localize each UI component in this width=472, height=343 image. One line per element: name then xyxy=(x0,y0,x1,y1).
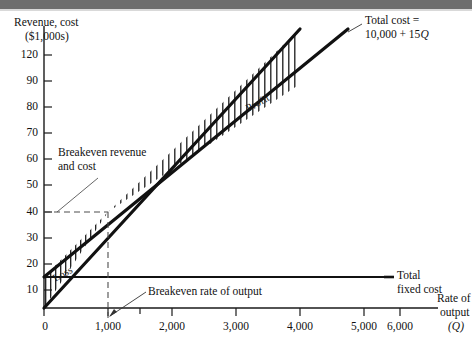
x-ticks xyxy=(44,308,400,316)
x-axis-title-line2: output xyxy=(440,306,469,320)
y-tick-label-80: 80 xyxy=(12,100,38,114)
breakeven-output-arrowhead xyxy=(109,309,117,317)
y-tick-label-50: 50 xyxy=(12,178,38,192)
y-tick-label-70: 70 xyxy=(12,126,38,140)
total-cost-equation-line1: Total cost = xyxy=(365,14,419,28)
breakeven-revenue-leader xyxy=(57,178,98,212)
breakeven-revenue-label-line1: Breakeven revenue xyxy=(58,146,146,160)
x-axis-title-line3: (Q) xyxy=(448,320,464,334)
breakeven-output-label: Breakeven rate of output xyxy=(148,285,262,299)
profit-region xyxy=(108,29,300,212)
y-axis-title-line1: Revenue, cost xyxy=(14,16,79,30)
total-cost-equation-line2: 10,000 + 15Q xyxy=(365,28,429,42)
y-axis-title-line2: ($1,000s) xyxy=(25,30,69,44)
total-cost-equation-q: Q xyxy=(420,28,428,40)
y-tick-label-120: 120 xyxy=(12,48,38,62)
total-cost-leader xyxy=(348,24,362,32)
loss-region xyxy=(44,212,108,308)
y-tick-label-10: 10 xyxy=(12,283,38,297)
y-tick-label-20: 20 xyxy=(12,257,38,271)
y-tick-label-60: 60 xyxy=(12,152,38,166)
y-tick-label-90: 90 xyxy=(12,74,38,88)
total-cost-equation-value: 10,000 + 15 xyxy=(365,28,420,40)
x-tick-label-6000: 6,000 xyxy=(375,320,425,334)
x-tick-label-2000: 2,000 xyxy=(147,320,197,334)
x-tick-label-4000: 4,000 xyxy=(275,320,325,334)
breakeven-revenue-label-line2: and cost xyxy=(58,160,96,174)
y-tick-label-40: 40 xyxy=(12,205,38,219)
total-fixed-cost-label-line2: fixed cost xyxy=(397,283,442,297)
total-fixed-cost-label-line1: Total xyxy=(397,269,420,283)
y-ticks xyxy=(44,55,52,290)
x-tick-label-1000: 1,000 xyxy=(83,320,133,334)
breakeven-chart: Revenue, cost ($1,000s) 120 90 80 70 60 … xyxy=(0,0,472,343)
x-tick-label-0: 0 xyxy=(38,320,52,334)
x-tick-label-3000: 3,000 xyxy=(211,320,261,334)
y-tick-label-30: 30 xyxy=(12,231,38,245)
